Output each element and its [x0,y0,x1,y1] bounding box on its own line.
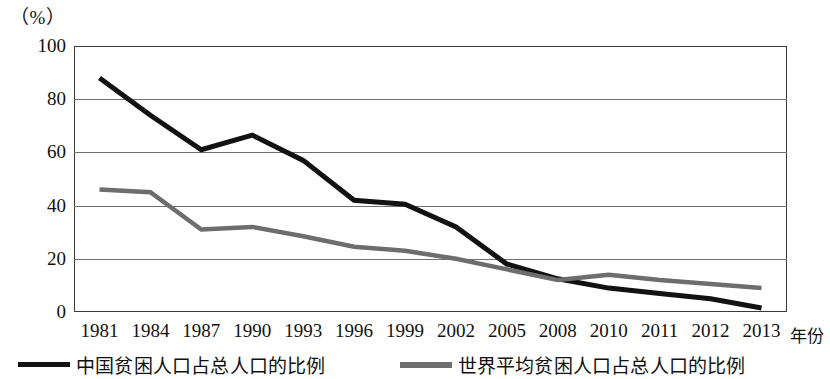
x-tick-2011: 2011 [641,320,678,342]
x-tick-2008: 2008 [539,320,577,342]
x-tick-1984: 1984 [131,320,169,342]
legend-label-world: 世界平均贫困人口占总人口的比例 [458,351,746,378]
poverty-rate-line-chart: （%） 020406080100 19811984198719901993199… [0,0,830,379]
chart-legend: 中国贫困人口占总人口的比例 世界平均贫困人口占总人口的比例 [0,350,830,379]
plot-area [74,46,787,312]
x-tick-1981: 1981 [81,320,119,342]
x-tick-2005: 2005 [488,320,526,342]
y-tick-0: 0 [6,301,66,323]
legend-swatch-world [400,362,452,368]
x-tick-1996: 1996 [335,320,373,342]
x-tick-2010: 2010 [590,320,628,342]
legend-item-world: 世界平均贫困人口占总人口的比例 [400,351,746,378]
x-tick-1990: 1990 [233,320,271,342]
x-tick-2012: 2012 [692,320,730,342]
y-tick-80: 80 [6,88,66,110]
x-tick-1999: 1999 [386,320,424,342]
series-line-1 [100,190,762,289]
legend-item-china: 中国贫困人口占总人口的比例 [18,351,326,378]
x-tick-2013: 2013 [743,320,781,342]
x-tick-2002: 2002 [437,320,475,342]
y-tick-100: 100 [6,35,66,57]
legend-swatch-china [18,362,70,367]
series-line-0 [100,78,762,308]
legend-label-china: 中国贫困人口占总人口的比例 [76,351,326,378]
y-tick-20: 20 [6,248,66,270]
x-axis-title: 年份 [790,322,824,347]
series-lines [74,46,787,312]
x-tick-1993: 1993 [284,320,322,342]
y-axis-unit-label: （%） [10,2,65,29]
x-tick-1987: 1987 [182,320,220,342]
y-tick-60: 60 [6,141,66,163]
y-tick-40: 40 [6,195,66,217]
